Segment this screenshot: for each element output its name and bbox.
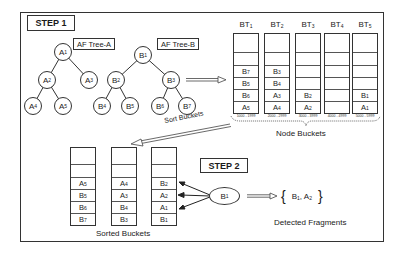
- bucket-range-label: 1000 - 1999: [232, 114, 260, 118]
- to-detected-arrow: [247, 193, 277, 199]
- node-subscript: 2: [117, 77, 120, 83]
- node-buckets-caption: Node Buckets: [276, 129, 326, 138]
- bucket-title-subscript: 3: [312, 23, 315, 29]
- tree-a-label: AF Tree-A: [73, 38, 115, 50]
- bucket-title-text: BT: [301, 20, 311, 29]
- cell-subscript: 5: [84, 181, 87, 187]
- step1-label: STEP 1: [27, 15, 75, 31]
- bucket-title-text: BT: [358, 20, 368, 29]
- node-subscript: 1: [64, 49, 67, 55]
- node-subscript: 3: [90, 77, 93, 83]
- bucket-cell: A4: [112, 177, 136, 189]
- cell-subscript: 5: [247, 81, 250, 87]
- bucket-title-subscript: 5: [369, 23, 372, 29]
- bucket-title: BT5: [351, 20, 379, 29]
- cell-subscript: 1: [165, 205, 168, 211]
- cell-subscript: 2: [165, 181, 168, 187]
- tree-node-b6: B6: [151, 97, 169, 115]
- bucket-cell: A1: [353, 101, 377, 113]
- cell-subscript: 3: [278, 93, 281, 99]
- bucket-cell: B3: [112, 213, 136, 225]
- node-subscript: 5: [131, 103, 134, 109]
- node-subscript: 6: [161, 103, 164, 109]
- bucket-column: B7B5B6A5: [233, 33, 259, 114]
- node-subscript: 1: [144, 52, 147, 58]
- bucket-cell-empty: [325, 89, 349, 101]
- bucket-cell: A2: [152, 189, 176, 201]
- bucket-cell-empty: [112, 164, 136, 177]
- bucket-cell: B6: [71, 201, 95, 213]
- cell-subscript: 1: [366, 105, 369, 111]
- bucket-title: BT3: [294, 20, 322, 29]
- node-subscript: 7: [188, 103, 191, 109]
- bucket-cell-empty: [325, 77, 349, 89]
- bucket-cell-empty: [234, 52, 258, 65]
- cell-subscript: 3: [125, 193, 128, 199]
- tree-node-b5: B5: [121, 97, 139, 115]
- cell-subscript: 3: [125, 217, 128, 223]
- cell-subscript: 4: [278, 105, 281, 111]
- bucket-column: A5B5B6B7: [70, 147, 96, 226]
- bucket-title-subscript: 2: [281, 23, 284, 29]
- bucket-cell: A3: [265, 89, 289, 101]
- bucket-title: BT1: [232, 20, 260, 29]
- tree-node-a4: A4: [24, 97, 42, 115]
- bucket-cell: B2: [296, 89, 320, 101]
- bucket-cell: A3: [112, 189, 136, 201]
- bucket-cell: A5: [234, 101, 258, 113]
- bucket-column: B3B4A3A4: [264, 33, 290, 114]
- tree-node-a1: A1: [54, 43, 72, 61]
- bucket-cell-empty: [353, 52, 377, 65]
- node-subscript: 4: [103, 103, 106, 109]
- bucket-cell-empty: [325, 52, 349, 65]
- detected-fragments-caption: Detected Fragments: [274, 218, 346, 227]
- node-subscript: 3: [172, 77, 175, 83]
- bucket-title-subscript: 1: [250, 23, 253, 29]
- detected-fragment-list: B1, A2: [292, 192, 312, 201]
- tree-b-label: AF Tree-B: [157, 38, 199, 50]
- detected-fragments-set: { B1, A2 }: [281, 186, 323, 206]
- left-brace: {: [281, 188, 286, 204]
- tree-node-a2: A2: [38, 71, 56, 89]
- bucket-cell-empty: [112, 148, 136, 164]
- bucket-cell-empty: [353, 34, 377, 52]
- tree-node-b1: B1: [134, 46, 152, 64]
- bucket-title: BT4: [323, 20, 351, 29]
- tree-node-a5: A5: [54, 97, 72, 115]
- bucket-title-text: BT: [270, 20, 280, 29]
- cell-subscript: 6: [247, 93, 250, 99]
- query-node-b1: B1: [209, 187, 240, 205]
- cell-subscript: 2: [309, 105, 312, 111]
- bucket-cell-empty: [265, 52, 289, 65]
- diagram-canvas: STEP 1 AF Tree-A AF Tree-B A1 A2 A3 A4 A…: [0, 0, 400, 257]
- tree-node-a3: A3: [80, 71, 98, 89]
- bucket-cell-empty: [296, 77, 320, 89]
- bucket-cell: B3: [265, 65, 289, 77]
- node-subscript: 1: [226, 193, 229, 199]
- bucket-cell-empty: [296, 65, 320, 77]
- cell-subscript: 7: [84, 217, 87, 223]
- cell-subscript: 7: [247, 69, 250, 75]
- sorted-buckets-caption: Sorted Buckets: [96, 229, 150, 238]
- bucket-cell: A4: [265, 101, 289, 113]
- cell-subscript: 2: [165, 193, 168, 199]
- bucket-cell: B4: [265, 77, 289, 89]
- bucket-cell: B4: [112, 201, 136, 213]
- bucket-cell-empty: [71, 148, 95, 164]
- bucket-cell: B1: [152, 213, 176, 225]
- bucket-cell-empty: [152, 164, 176, 177]
- bucket-range-label: 3000 - 3999: [294, 114, 322, 118]
- step2-label: STEP 2: [200, 158, 248, 173]
- cell-subscript: 3: [278, 69, 281, 75]
- bucket-cell-empty: [325, 65, 349, 77]
- to-buckets-arrow: [186, 77, 226, 84]
- tree-node-b4: B4: [93, 97, 111, 115]
- bucket-column: B2A2: [295, 33, 321, 114]
- bucket-cell-empty: [325, 34, 349, 52]
- cell-subscript: 6: [84, 205, 87, 211]
- bucket-cell-empty: [265, 34, 289, 52]
- bucket-title-subscript: 4: [341, 23, 344, 29]
- bucket-range-label: 4000 - 4999: [323, 114, 351, 118]
- sort-buckets-arrow: [131, 124, 231, 146]
- bucket-cell-empty: [152, 148, 176, 164]
